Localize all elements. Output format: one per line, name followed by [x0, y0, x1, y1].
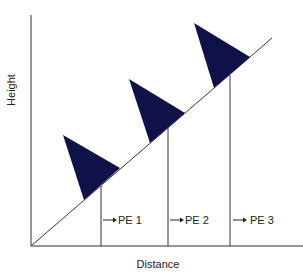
arrow-icon [233, 218, 247, 223]
triangle-marker-1 [63, 135, 120, 200]
arrow-icon [103, 218, 117, 223]
pe-label-3: PE 3 [250, 214, 274, 226]
triangle-marker-3 [194, 23, 250, 88]
arrow-icon [170, 218, 184, 223]
pe-label-2: PE 2 [185, 214, 209, 226]
pe-label-1: PE 1 [118, 214, 142, 226]
diagram-canvas: PE 1 PE 2 PE 3 Distance Height [0, 0, 303, 272]
y-axis-label: Height [5, 74, 17, 106]
triangle-marker-2 [129, 79, 185, 143]
x-axis-label: Distance [137, 258, 180, 270]
